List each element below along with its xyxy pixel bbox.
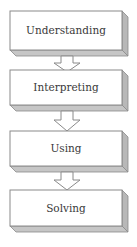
step-label-solving: Solving (46, 202, 86, 214)
down-arrow-icon (54, 172, 80, 190)
step-box-using: Using (10, 131, 128, 172)
box-bottom-shade (10, 105, 128, 111)
box-bottom-shade (10, 50, 128, 56)
box-bottom-shade (10, 166, 128, 172)
step-box-interpreting: Interpreting (10, 70, 128, 111)
step-label-using: Using (50, 142, 81, 154)
box-bottom-shade (10, 226, 128, 232)
box-side-shade (122, 11, 128, 56)
step-box-solving: Solving (10, 190, 128, 232)
box-side-shade (122, 70, 128, 111)
step-label-interpreting: Interpreting (33, 81, 99, 93)
down-arrow-icon (54, 111, 80, 131)
step-label-understanding: Understanding (26, 24, 106, 36)
step-box-understanding: Understanding (10, 11, 128, 56)
box-side-shade (122, 190, 128, 232)
box-side-shade (122, 131, 128, 172)
flowchart: Understanding Interpreting Using Solving (0, 0, 137, 247)
